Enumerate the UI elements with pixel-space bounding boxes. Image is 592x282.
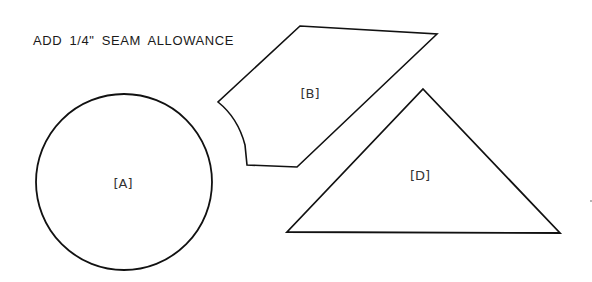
piece-d-label: [D] [410,168,430,183]
piece-d-outline [287,89,560,233]
pattern-sheet: ADD 1/4" SEAM ALLOWANCE [A] [B] [D] [0,0,592,282]
piece-b-label: [B] [300,86,319,101]
piece-b-outline [218,26,437,167]
seam-allowance-note: ADD 1/4" SEAM ALLOWANCE [33,33,234,48]
piece-a-label: [A] [113,176,132,191]
